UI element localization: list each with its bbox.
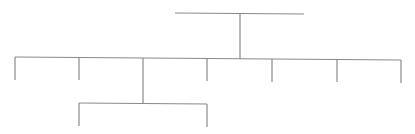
tree-connector-lines xyxy=(0,0,415,134)
tree-diagram xyxy=(0,0,415,134)
root-bar xyxy=(175,13,304,14)
level2-bar xyxy=(79,103,207,104)
level1-bar xyxy=(15,57,401,60)
